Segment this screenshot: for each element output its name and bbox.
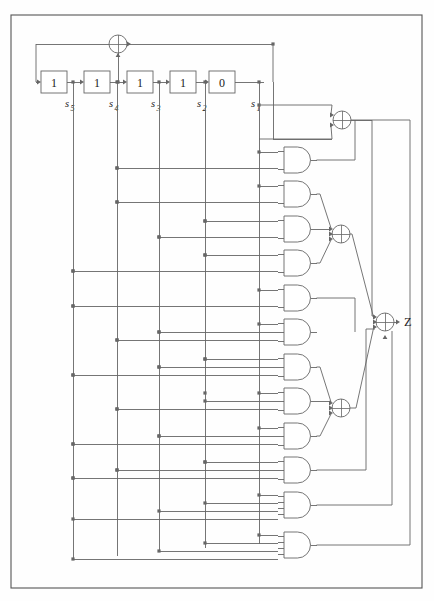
feed-junction-19 xyxy=(257,426,260,429)
xor-out-arrow-4 xyxy=(383,335,388,339)
and-gate-7 xyxy=(284,354,311,380)
shift-register-value-5: 1 xyxy=(51,76,57,90)
and-gate-4 xyxy=(284,250,311,276)
bus-dot-7 xyxy=(115,338,118,341)
svg-text:2: 2 xyxy=(203,104,207,113)
and-gate-2 xyxy=(284,181,311,207)
bus-dot-15 xyxy=(203,253,206,256)
bus-dot-11 xyxy=(157,330,160,333)
and5-to-rail xyxy=(317,298,356,332)
bus-dot-8 xyxy=(115,407,118,410)
xor-top-in-2 xyxy=(259,126,332,139)
svg-text:s: s xyxy=(197,98,201,109)
xor-mid-to-out xyxy=(350,234,374,319)
bus-dot-16 xyxy=(203,357,206,360)
feed-junction-8 xyxy=(257,288,260,291)
bus-dot-2 xyxy=(71,373,74,376)
xor-top-in-1 xyxy=(259,105,332,114)
feed-junction-29 xyxy=(257,533,260,536)
register-link-arrow-2 xyxy=(166,80,170,85)
and-gate-3 xyxy=(284,216,311,242)
bus-dot-3 xyxy=(71,442,74,445)
svg-text:s: s xyxy=(151,98,155,109)
feed-junction-26 xyxy=(203,501,206,504)
feed-junction-0 xyxy=(257,150,260,153)
bus-dot-9 xyxy=(115,468,118,471)
feedback-arrow xyxy=(37,80,41,85)
and-gate-10 xyxy=(284,457,311,483)
shift-register-value-2: 1 xyxy=(180,76,186,90)
output-arrow xyxy=(396,320,400,325)
xor-top-to-out xyxy=(372,120,375,316)
bus-dot-13 xyxy=(157,434,160,437)
circuit-diagram-svg: 1s51s41s31s20s1Z xyxy=(0,0,434,601)
xor-low-in-3 xyxy=(317,414,332,436)
and-gate-8 xyxy=(284,388,311,414)
feed-junction-30 xyxy=(203,541,206,544)
xor-mid-in-3 xyxy=(317,240,332,263)
circuit-diagram-canvas: 1s51s41s31s20s1Z xyxy=(0,0,434,601)
feed-junction-31 xyxy=(157,549,160,552)
feedback-corner xyxy=(36,44,37,82)
and11-to-out xyxy=(317,331,393,505)
feed-junction-16 xyxy=(257,391,260,394)
bus-dot-12 xyxy=(157,365,160,368)
and-gate-1 xyxy=(284,147,311,173)
bus-dot-6 xyxy=(115,200,118,203)
bus-dot-5 xyxy=(115,166,118,169)
output-label-z: Z xyxy=(404,315,412,329)
and-gate-9 xyxy=(284,423,311,449)
feedback-right-arrow xyxy=(127,42,131,47)
svg-text:4: 4 xyxy=(115,104,119,113)
and-gate-6 xyxy=(284,319,311,345)
xor-low-to-out xyxy=(350,326,374,408)
shift-register-value-3: 1 xyxy=(137,76,143,90)
svg-text:s: s xyxy=(109,98,113,109)
feed-junction-17 xyxy=(203,399,206,402)
feed-junction-27 xyxy=(157,509,160,512)
bus-dot-1 xyxy=(71,304,74,307)
bus-dot-18 xyxy=(203,460,206,463)
feed-junction-28 xyxy=(71,517,74,520)
bus-dot-0 xyxy=(71,269,74,272)
feedback-right-dot xyxy=(271,42,274,45)
shift-register-value-1: 0 xyxy=(219,76,225,90)
bus-dot-14 xyxy=(203,219,206,222)
and-gate-12 xyxy=(284,532,311,558)
bus-dot-10 xyxy=(157,235,160,238)
svg-text:s: s xyxy=(251,98,255,109)
register-link-arrow-0 xyxy=(80,80,84,85)
shift-register-value-4: 1 xyxy=(94,76,100,90)
register-link-arrow-1 xyxy=(123,80,127,85)
svg-text:5: 5 xyxy=(71,104,75,113)
feed-junction-10 xyxy=(257,322,260,325)
feed-junction-2 xyxy=(257,184,260,187)
feed-junction-25 xyxy=(257,493,260,496)
feed-junction-32 xyxy=(71,557,74,560)
xor-mid-in-1 xyxy=(317,194,332,228)
bus-dot-17 xyxy=(203,391,206,394)
and-gate-5 xyxy=(284,285,311,311)
bus-dot-4 xyxy=(71,476,74,479)
and12-to-out xyxy=(317,120,411,545)
and-gate-11 xyxy=(284,492,311,518)
xor-low-in-1 xyxy=(317,367,332,402)
and10-to-out xyxy=(317,329,376,470)
svg-text:s: s xyxy=(65,98,69,109)
xor-top-in-1-dot xyxy=(257,103,260,106)
feedback-xor-in-arrow xyxy=(116,53,121,57)
svg-text:3: 3 xyxy=(156,104,161,113)
